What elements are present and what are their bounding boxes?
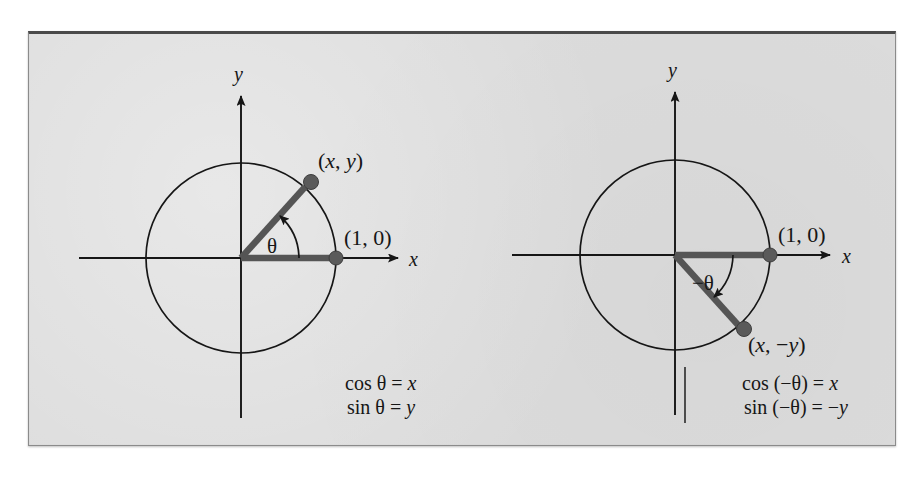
- formula-lhs: cos (−: [742, 372, 792, 395]
- x-axis-label-left: x: [408, 248, 418, 270]
- formula-eq: =: [385, 396, 406, 418]
- formula-eq: ) =: [801, 372, 829, 395]
- formula-eq: =: [386, 372, 407, 394]
- formula-theta: θ: [792, 372, 802, 394]
- coord-x: x: [754, 332, 765, 357]
- coord-comma: ,: [335, 148, 346, 173]
- coord-y: y: [787, 332, 799, 357]
- unit-point-label-left: (1, 0): [344, 225, 392, 250]
- formula-sin-left: sin θ = y: [347, 396, 415, 419]
- formula-theta: θ: [375, 396, 385, 418]
- point-unit-right: [763, 248, 777, 262]
- paren-open: (: [318, 148, 325, 173]
- point-unit-left: [329, 251, 343, 265]
- coord-y: y: [344, 148, 356, 173]
- panel-positive-angle: x y θ (x, y) (1, 0) cos θ = x sin θ = y: [79, 63, 418, 419]
- figure-page: x y θ (x, y) (1, 0) cos θ = x sin θ = y: [0, 0, 921, 477]
- formula-cos-left: cos θ = x: [345, 372, 417, 394]
- terminal-point-label-left: (x, y): [318, 148, 363, 173]
- point-terminal-left: [304, 175, 319, 190]
- formula-rhs: y: [837, 396, 848, 419]
- coord-x: x: [324, 148, 335, 173]
- angle-label-right: −θ: [692, 271, 714, 295]
- angle-arc-left: [280, 216, 299, 258]
- formula-cos-right: cos (−θ) = x: [742, 372, 838, 395]
- x-axis-label-right: x: [841, 245, 851, 267]
- panel-negative-angle: x y −θ (x, −y) (1, 0) cos (−θ) = x sin (…: [512, 59, 851, 419]
- formula-eq: ) = −: [800, 396, 839, 419]
- unit-circle-diagram: x y θ (x, y) (1, 0) cos θ = x sin θ = y: [0, 0, 921, 477]
- formula-sin-right: sin (−θ) = −y: [744, 396, 848, 419]
- y-axis-label-left: y: [232, 63, 243, 86]
- formula-theta: θ: [377, 372, 387, 394]
- y-axis-label-right: y: [666, 59, 677, 82]
- angle-arc-right: [714, 255, 733, 297]
- paren-close: ): [356, 148, 363, 173]
- formula-lhs: cos: [345, 372, 377, 394]
- formula-lhs: sin (−: [744, 396, 790, 419]
- formula-rhs: x: [828, 372, 838, 394]
- angle-label-left: θ: [267, 234, 277, 258]
- paren-open: (: [748, 332, 755, 357]
- paren-close: ): [798, 332, 805, 357]
- formula-rhs: x: [407, 372, 417, 394]
- coord-comma: , −: [765, 332, 788, 357]
- formula-lhs: sin: [347, 396, 375, 418]
- formula-theta: θ: [790, 396, 800, 418]
- unit-point-label-right: (1, 0): [778, 222, 826, 247]
- formula-rhs: y: [404, 396, 415, 419]
- terminal-point-label-right: (x, −y): [748, 332, 806, 357]
